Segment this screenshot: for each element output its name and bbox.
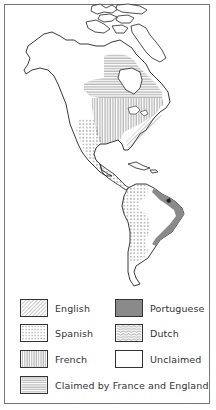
spanish-swatch-icon [20,324,48,342]
legend-label-english: English [55,303,90,314]
legend-label-portuguese: Portuguese [150,303,205,314]
french-swatch-icon [20,350,48,368]
legend-label-spanish: Spanish [55,328,93,339]
legend-label-dutch: Dutch [150,328,179,339]
legend-item-french: French [20,349,87,369]
legend-item-dutch: Dutch [115,323,179,343]
legend-label-french: French [55,354,87,365]
portuguese-swatch-icon [115,299,143,317]
south-america [122,184,184,286]
unclaimed-swatch-icon [115,350,143,368]
legend-item-unclaimed: Unclaimed [115,349,201,369]
legend-item-spanish: Spanish [20,323,93,343]
dutch-swatch-icon [115,324,143,342]
legend-item-france-england: Claimed by France and England [20,375,209,395]
france-england-swatch-icon [20,376,48,394]
legend-item-portuguese: Portuguese [115,298,205,318]
region-spanish-south [122,184,150,264]
americas-colonial-map [0,0,216,292]
legend-item-english: English [20,298,90,318]
legend-label-unclaimed: Unclaimed [150,354,201,365]
english-swatch-icon [20,299,48,317]
legend-label-france-england: Claimed by France and England [55,380,209,391]
